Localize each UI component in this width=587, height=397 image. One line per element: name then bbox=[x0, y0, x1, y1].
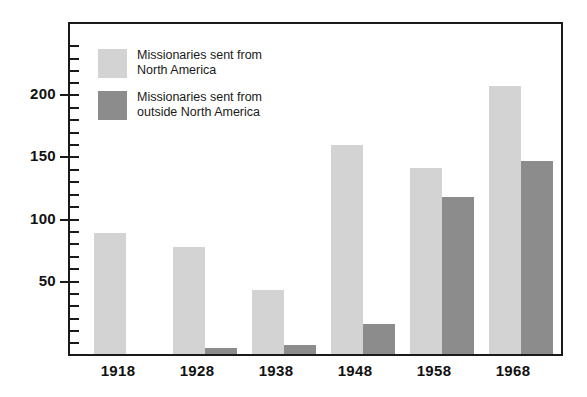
y-minor-tick bbox=[68, 206, 79, 208]
x-axis-label-1938: 1938 bbox=[236, 362, 316, 379]
y-minor-tick bbox=[68, 132, 79, 134]
bar-1958-series2 bbox=[442, 197, 474, 354]
x-axis-label-1928: 1928 bbox=[157, 362, 237, 379]
y-axis-label-200-wrap: 200 bbox=[0, 85, 56, 103]
bar-1918-series1 bbox=[94, 233, 126, 354]
bar-1938-series1 bbox=[252, 290, 284, 354]
x-axis-label-1968: 1968 bbox=[473, 362, 553, 379]
y-minor-tick bbox=[68, 45, 79, 47]
y-minor-tick bbox=[68, 256, 79, 258]
y-minor-tick bbox=[68, 231, 79, 233]
y-minor-tick bbox=[68, 293, 79, 295]
y-minor-tick bbox=[68, 119, 79, 121]
y-minor-tick bbox=[68, 318, 79, 320]
legend-label-north-america: Missionaries sent from North America bbox=[137, 48, 262, 78]
bar-1958-series1 bbox=[410, 168, 442, 354]
bar-1928-series2 bbox=[205, 348, 237, 354]
legend-entry-outside-north-america: Missionaries sent from outside North Ame… bbox=[98, 90, 328, 120]
bar-1928-series1 bbox=[173, 247, 205, 354]
y-axis-label-150: 150 bbox=[12, 147, 56, 164]
y-minor-tick bbox=[68, 82, 79, 84]
y-minor-tick bbox=[68, 305, 79, 307]
legend-entry-north-america: Missionaries sent from North America bbox=[98, 48, 328, 78]
legend: Missionaries sent from North America Mis… bbox=[98, 48, 328, 132]
y-minor-tick bbox=[68, 107, 79, 109]
legend-label-outside-north-america: Missionaries sent from outside North Ame… bbox=[137, 90, 262, 120]
y-minor-tick bbox=[68, 70, 79, 72]
y-axis-label-150-wrap: 150 bbox=[0, 147, 56, 165]
y-minor-tick bbox=[68, 330, 79, 332]
y-axis-label-50-wrap: 50 bbox=[0, 272, 56, 290]
bar-1968-series2 bbox=[521, 161, 553, 354]
y-axis-label-200: 200 bbox=[12, 85, 56, 102]
legend-swatch-light bbox=[98, 49, 127, 78]
y-minor-tick bbox=[68, 342, 79, 344]
bar-1938-series2 bbox=[284, 345, 316, 354]
bar-1948-series2 bbox=[363, 324, 395, 354]
x-axis-label-1958: 1958 bbox=[394, 362, 474, 379]
y-minor-tick bbox=[68, 268, 79, 270]
y-axis-label-100-wrap: 100 bbox=[0, 210, 56, 228]
y-axis-label-50: 50 bbox=[12, 272, 56, 289]
y-minor-tick bbox=[68, 144, 79, 146]
y-minor-tick bbox=[68, 243, 79, 245]
x-axis-label-1948: 1948 bbox=[315, 362, 395, 379]
y-major-tick-200 bbox=[60, 94, 79, 96]
legend-swatch-dark bbox=[98, 91, 127, 120]
y-minor-tick bbox=[68, 194, 79, 196]
bar-1968-series1 bbox=[489, 86, 521, 354]
y-major-tick-50 bbox=[60, 281, 79, 283]
y-minor-tick bbox=[68, 169, 79, 171]
y-major-tick-150 bbox=[60, 156, 79, 158]
y-major-tick-100 bbox=[60, 219, 79, 221]
chart-page: 200 150 100 50 Missionaries sent from No… bbox=[0, 0, 587, 397]
y-minor-tick bbox=[68, 181, 79, 183]
y-minor-tick bbox=[68, 58, 79, 60]
bar-1948-series1 bbox=[331, 145, 363, 354]
y-axis-label-100: 100 bbox=[12, 210, 56, 227]
x-axis-label-1918: 1918 bbox=[78, 362, 158, 379]
